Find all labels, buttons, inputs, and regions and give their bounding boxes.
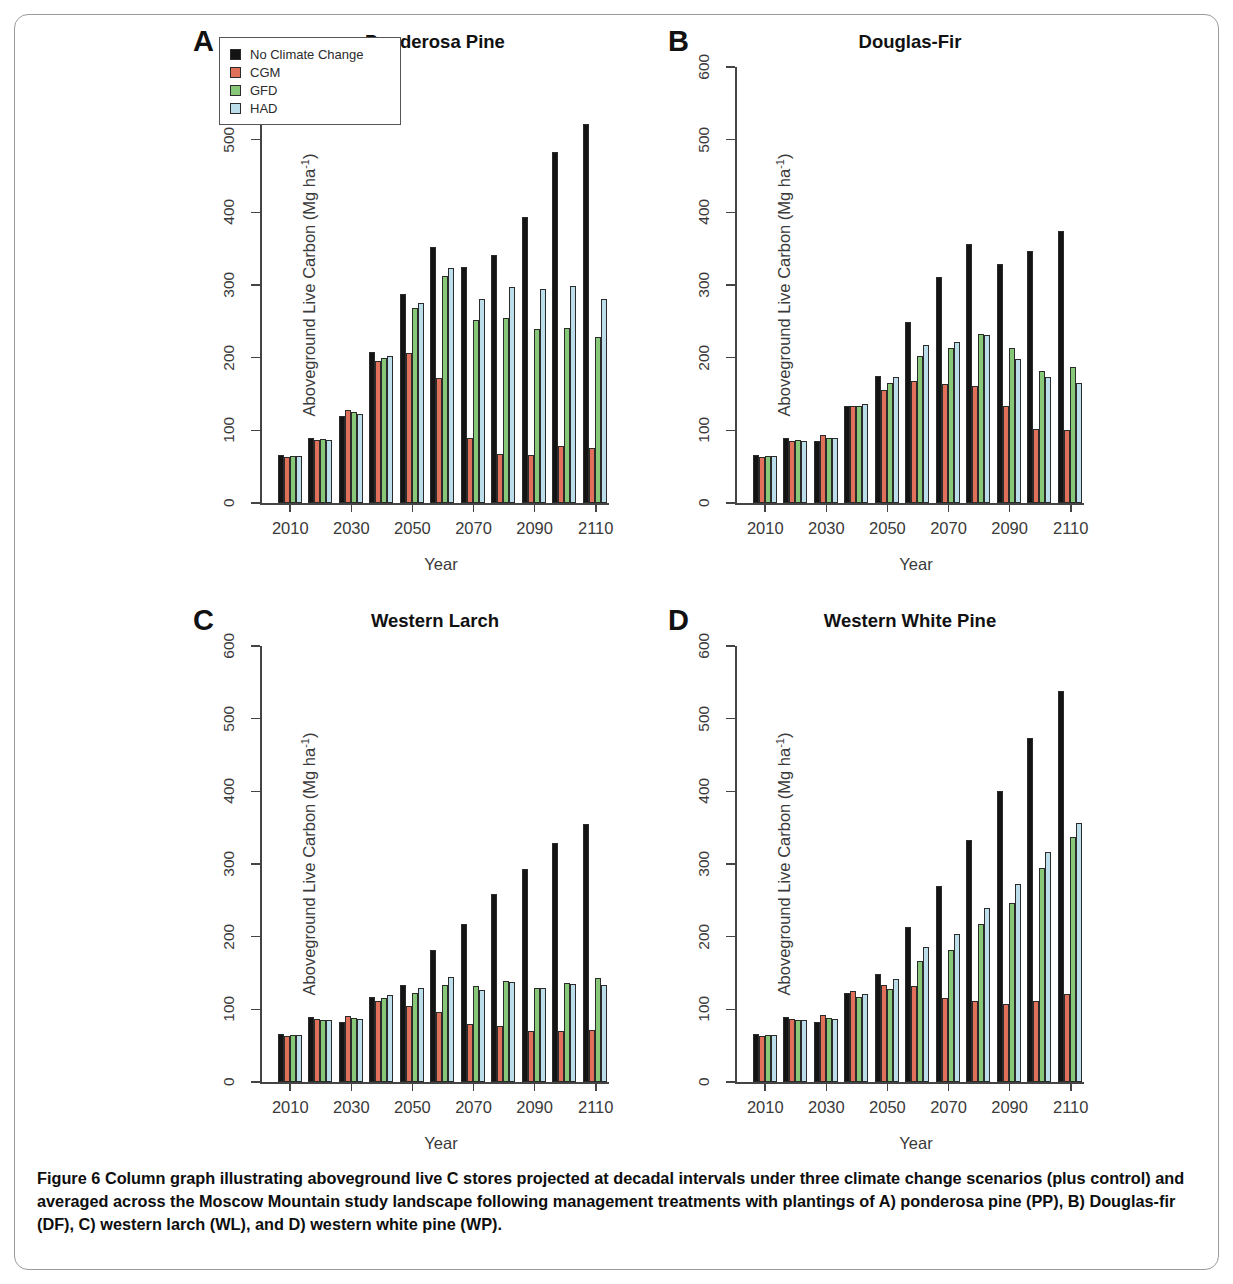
- bar-group: [875, 67, 901, 503]
- x-axis-tick: [1009, 503, 1011, 512]
- x-axis-tick-label: 2010: [257, 519, 323, 538]
- bar: [326, 1020, 332, 1082]
- y-axis-tick-label: 0: [696, 483, 712, 523]
- y-axis-tick-label: 100: [696, 989, 712, 1029]
- legend-item-label: No Climate Change: [250, 47, 363, 62]
- x-axis-tick: [764, 1082, 766, 1091]
- bar: [832, 1019, 838, 1082]
- bar-group: [844, 67, 870, 503]
- y-axis-tick: [251, 863, 260, 865]
- panel-d-western-white-pine: DWestern White Pine0100200300400500600Ab…: [650, 600, 1120, 1173]
- x-axis-tick: [826, 503, 828, 512]
- x-axis-tick-label: 2110: [563, 1098, 629, 1117]
- y-axis-line: [735, 646, 737, 1082]
- bar: [509, 287, 515, 503]
- bar: [387, 995, 393, 1082]
- panel-c-western-larch: CWestern Larch0100200300400500600Abovegr…: [175, 600, 645, 1173]
- bar: [387, 356, 393, 504]
- legend-swatch-icon: [230, 103, 241, 114]
- bar: [893, 377, 899, 503]
- y-axis-tick: [726, 936, 735, 938]
- bar-group: [753, 646, 779, 1082]
- x-axis-tick-label: 2070: [441, 1098, 507, 1117]
- bar: [448, 977, 454, 1082]
- figure-caption: Figure 6 Column graph illustrating above…: [37, 1167, 1197, 1236]
- bar: [1045, 852, 1051, 1082]
- x-axis-tick-label: 2010: [257, 1098, 323, 1117]
- x-axis-tick: [1009, 1082, 1011, 1091]
- panel-letter-d: D: [668, 604, 689, 637]
- y-axis-tick: [251, 502, 260, 504]
- panel-grid: APonderosa Pine0100200300400500600Aboveg…: [15, 15, 1220, 1161]
- bar-group: [552, 646, 578, 1082]
- bar: [923, 345, 929, 503]
- x-axis-tick-label: 2070: [441, 519, 507, 538]
- x-axis-tick: [764, 503, 766, 512]
- y-axis-tick-label: 100: [696, 410, 712, 450]
- x-axis-tick-label: 2070: [916, 519, 982, 538]
- x-axis-line: [260, 1082, 609, 1084]
- bar-group: [491, 646, 517, 1082]
- x-axis-title: Year: [273, 555, 609, 574]
- panel-letter-b: B: [668, 25, 689, 58]
- x-axis-tick: [351, 503, 353, 512]
- bar: [771, 456, 777, 503]
- bar-group: [339, 646, 365, 1082]
- bar: [357, 414, 363, 503]
- x-axis-tick-label: 2090: [977, 1098, 1043, 1117]
- bar: [601, 299, 607, 503]
- x-axis-tick: [473, 1082, 475, 1091]
- bar-group: [1058, 646, 1084, 1082]
- x-axis-tick-label: 2110: [1038, 519, 1104, 538]
- panel-letter-a: A: [193, 25, 214, 58]
- caption-label: Figure 6: [37, 1169, 100, 1187]
- bar-group: [278, 67, 304, 503]
- y-axis-tick-label: 0: [696, 1062, 712, 1102]
- x-axis-tick: [826, 1082, 828, 1091]
- y-axis-tick: [251, 1081, 260, 1083]
- bar: [601, 985, 607, 1082]
- x-axis-tick-label: 2090: [502, 519, 568, 538]
- legend-item: GFD: [230, 81, 392, 99]
- x-axis-tick: [351, 1082, 353, 1091]
- x-axis-tick: [595, 1082, 597, 1091]
- panel-title: Douglas-Fir: [710, 31, 1110, 53]
- bar: [862, 994, 868, 1082]
- x-axis-tick-label: 2050: [379, 519, 445, 538]
- plot-area: 0100200300400500600Aboveground Live Carb…: [273, 646, 609, 1082]
- x-axis-tick: [948, 1082, 950, 1091]
- legend-item: CGM: [230, 63, 392, 81]
- x-axis-tick: [534, 503, 536, 512]
- bar-group: [491, 67, 517, 503]
- plot-area: 0100200300400500600Aboveground Live Carb…: [748, 67, 1084, 503]
- y-axis-tick-label: 300: [221, 265, 237, 305]
- x-axis-tick-label: 2070: [916, 1098, 982, 1117]
- x-axis-tick: [948, 503, 950, 512]
- bar: [357, 1019, 363, 1082]
- y-axis-tick-label: 200: [221, 337, 237, 377]
- y-axis-tick: [726, 139, 735, 141]
- bar-group: [1058, 67, 1084, 503]
- bar-group: [814, 67, 840, 503]
- bar-group: [905, 646, 931, 1082]
- bar-group: [875, 646, 901, 1082]
- bar-group: [583, 67, 609, 503]
- bar-group: [369, 646, 395, 1082]
- y-axis-tick-label: 300: [696, 844, 712, 884]
- bar-group: [430, 646, 456, 1082]
- x-axis-tick: [1070, 503, 1072, 512]
- bar-group: [1027, 646, 1053, 1082]
- plot-area: 0100200300400500600Aboveground Live Carb…: [273, 67, 609, 503]
- bar-group: [522, 646, 548, 1082]
- bar-group: [278, 646, 304, 1082]
- x-axis-tick: [412, 1082, 414, 1091]
- x-axis-tick: [534, 1082, 536, 1091]
- bar-group: [1027, 67, 1053, 503]
- x-axis-tick: [473, 503, 475, 512]
- x-axis-tick-label: 2090: [502, 1098, 568, 1117]
- legend-swatch-icon: [230, 85, 241, 96]
- x-axis-tick-label: 2030: [793, 519, 859, 538]
- bar-group: [461, 646, 487, 1082]
- y-axis-tick: [726, 212, 735, 214]
- x-axis-tick-label: 2030: [318, 519, 384, 538]
